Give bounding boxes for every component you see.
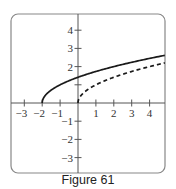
- y-tick-label: −3: [61, 152, 73, 164]
- y-tick-label: 3: [68, 42, 74, 54]
- plot-frame: [11, 14, 165, 173]
- x-tick-label: 1: [93, 107, 99, 119]
- x-tick-label: −3: [15, 107, 27, 119]
- curve-sqrt-x-plus-2: [42, 55, 165, 103]
- y-tick-label: 2: [68, 61, 74, 73]
- y-tick-label: −2: [61, 133, 73, 145]
- figure-caption: Figure 61: [0, 173, 176, 187]
- y-tick-label: −1: [61, 115, 73, 127]
- graph-figure: −3−2−11234 432−1−2−3: [0, 0, 176, 189]
- x-tick-label: 2: [111, 107, 117, 119]
- x-tick-label: 4: [147, 107, 153, 119]
- y-tick-label: 4: [68, 24, 74, 36]
- x-tick-label: −2: [33, 107, 45, 119]
- curve-sqrt-x: [78, 63, 165, 103]
- x-tick-label: 3: [129, 107, 135, 119]
- x-axis-ticks: −3−2−11234: [15, 100, 152, 120]
